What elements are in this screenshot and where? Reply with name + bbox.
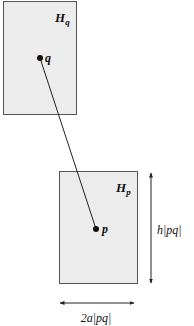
diagram-canvas: Hq Hp q p h|pq| 2a|pq| [0,0,194,326]
point-p-label: p [101,222,108,236]
height-label: h|pq| [157,223,182,237]
point-q-label: q [45,51,51,65]
point-p [93,226,99,232]
point-q [37,55,43,61]
width-label: 2a|pq| [81,311,112,325]
